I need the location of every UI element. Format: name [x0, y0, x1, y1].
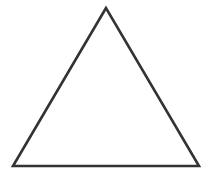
triangle-shape: [13, 8, 199, 166]
diagram-canvas: [0, 0, 224, 180]
triangle-diagram: [0, 0, 224, 180]
